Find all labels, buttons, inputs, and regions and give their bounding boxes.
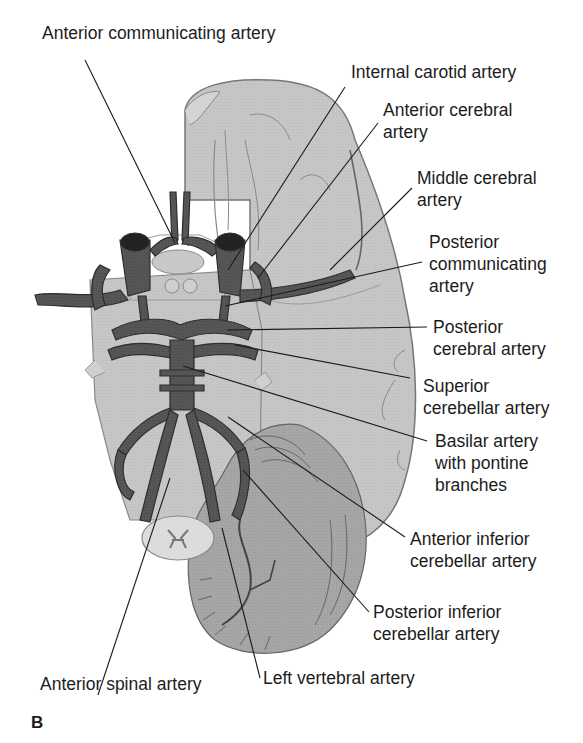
- label-anterior-spinal-artery: Anterior spinal artery: [40, 673, 201, 695]
- label-internal-carotid-artery: Internal carotid artery: [351, 61, 516, 83]
- label-basilar-artery: Basilar artery with pontine branches: [435, 430, 538, 496]
- label-middle-cerebral-artery: Middle cerebral artery: [417, 167, 537, 211]
- label-anterior-cerebral-artery: Anterior cerebral artery: [383, 99, 512, 143]
- label-anterior-communicating-artery: Anterior communicating artery: [42, 22, 275, 44]
- panel-letter: B: [31, 713, 43, 733]
- label-posterior-inferior-cerebellar-artery: Posterior inferior cerebellar artery: [373, 601, 501, 645]
- label-superior-cerebellar-artery: Superior cerebellar artery: [423, 375, 549, 419]
- label-posterior-cerebral-artery: Posterior cerebral artery: [433, 316, 546, 360]
- spinal-cord-section: [142, 516, 214, 560]
- label-left-vertebral-artery: Left vertebral artery: [263, 667, 415, 689]
- label-posterior-communicating-artery: Posterior communicating artery: [429, 231, 547, 297]
- label-anterior-inferior-cerebellar-artery: Anterior inferior cerebellar artery: [410, 528, 536, 572]
